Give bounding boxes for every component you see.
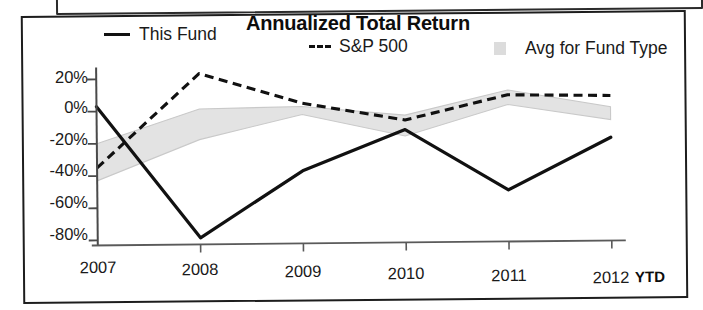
x-tick-label-2008: 2008 <box>170 260 230 280</box>
y-tick-label-neg20: -20% <box>26 130 88 149</box>
y-tick-label-20: 20% <box>26 68 88 87</box>
x-axis <box>92 240 626 245</box>
x-tick-label-2011: 2011 <box>479 266 539 286</box>
y-tick-label-0: 0% <box>26 98 88 117</box>
y-tick-label-neg40: -40% <box>26 161 88 180</box>
x-tick-label-2007: 2007 <box>68 258 128 278</box>
x-tick-label-2012: 2012 <box>581 268 641 288</box>
y-axis <box>96 67 98 245</box>
avg-fund-type-band <box>96 89 611 181</box>
x-tick-label-2009: 2009 <box>273 262 333 282</box>
y-tick-label-neg80: -80% <box>26 225 88 244</box>
x-tick-label-2010: 2010 <box>376 264 436 284</box>
y-tick-label-neg60: -60% <box>26 193 88 212</box>
ytd-annotation: YTD <box>635 268 665 285</box>
